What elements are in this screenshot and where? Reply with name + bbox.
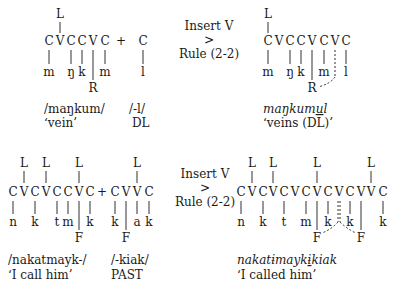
skeleton-slot: C [285, 34, 294, 48]
output-gloss: ‘I called him’ [237, 268, 316, 282]
skeleton-slot: V [307, 34, 317, 48]
stem-form: /maŋkum/ [44, 102, 106, 116]
suffix-gloss: PAST [111, 268, 143, 282]
tone-L: L [367, 156, 375, 170]
skeleton-slot: V [132, 185, 142, 199]
suffix-form: /-kiak/ [111, 253, 150, 267]
segment: n [237, 215, 245, 229]
skeleton-slot: C [319, 34, 328, 48]
plus-sign: + [116, 34, 126, 48]
skeleton-slot: C [77, 34, 86, 48]
segment: k [297, 65, 305, 79]
tone-tier: L L L L [20, 156, 141, 170]
example-2-input: L L L L C V C V C C V C + C V V C [8, 156, 154, 282]
skeleton-slot: V [41, 185, 51, 199]
segment: l [344, 65, 348, 79]
tone-L: L [269, 156, 277, 170]
root-node-R: R [307, 81, 317, 95]
output-form-part: l [323, 102, 327, 116]
output-form-part: nakatɨmayk [237, 253, 308, 267]
skeleton-slot: C [100, 34, 109, 48]
segment: ŋ [67, 65, 75, 79]
skeleton-slot: V [247, 185, 257, 199]
tone-L: L [133, 156, 141, 170]
rule-name: Rule (2-2) [175, 195, 235, 209]
skeleton-slot: V [121, 185, 131, 199]
skeleton-slot: V [268, 185, 278, 199]
example-2-output: L L L L C V C V C V C V C V C V V C [236, 156, 387, 282]
tone-L: L [313, 156, 321, 170]
skeleton-slot: C [341, 34, 350, 48]
tone-L: L [42, 156, 50, 170]
stem-gloss: ‘vein’ [44, 116, 77, 130]
tone-L: L [264, 7, 272, 21]
skeleton-slot: C [263, 34, 272, 48]
segment: t [282, 215, 287, 229]
skeleton-slot: C [52, 185, 61, 199]
skeleton-slot: C [301, 185, 310, 199]
rule-label-2: Insert V > Rule (2-2) [175, 167, 235, 209]
segment: m [99, 65, 111, 79]
skeleton-tier: C V C C V C V C [263, 34, 350, 48]
plus-sign: + [97, 185, 107, 199]
skeleton-slot: V [88, 34, 98, 48]
segment: m [62, 215, 74, 229]
skeleton-tier: C V C C V C + C [44, 34, 147, 48]
output-form: maŋkumul [263, 102, 327, 116]
skeleton-slot: C [138, 34, 147, 48]
skeleton-slot: C [279, 185, 288, 199]
segment: a [133, 215, 140, 229]
segment: k [78, 65, 86, 79]
skeleton-slot-inserted: V [290, 185, 300, 199]
output-form-part: maŋkum [263, 102, 316, 116]
segment: k [259, 215, 267, 229]
skeleton-slot: V [274, 34, 284, 48]
segment: m [318, 65, 330, 79]
skeleton-slot: C [345, 185, 354, 199]
rule-insert-v: Insert V [185, 19, 234, 33]
skeleton-slot: C [258, 185, 267, 199]
skeleton-slot: V [55, 34, 65, 48]
skeleton-slot: C [63, 185, 72, 199]
autosegmental-diagram: L C V C C V C + C m ŋ k m l R /maŋkum/ ‘… [0, 0, 399, 292]
skeleton-slot: C [30, 185, 39, 199]
skeleton-tier: C V C V C V C V C V C V V C [236, 185, 387, 199]
segment: k [111, 215, 119, 229]
segment: k [86, 215, 94, 229]
tone-L: L [75, 156, 83, 170]
skeleton-slot: C [378, 185, 387, 199]
skeleton-slot: V [19, 185, 29, 199]
skeleton-slot: C [44, 34, 53, 48]
output-form-part: kiak [311, 253, 337, 267]
segment: ŋ [286, 65, 294, 79]
root-node-F: F [357, 231, 365, 245]
stem-form: /nakatmayk-/ [8, 253, 88, 267]
root-node-F: F [313, 231, 321, 245]
rule-arrow: > [200, 181, 210, 195]
root-node-F: F [122, 231, 130, 245]
segment: m [43, 65, 55, 79]
example-1-output: L C V C C V C V C m ŋ k m l R maŋkumul ‘… [262, 7, 350, 130]
example-1-input: L C V C C V C + C m ŋ k m l R /maŋkum/ ‘… [43, 7, 149, 130]
skeleton-slot: C [236, 185, 245, 199]
skeleton-slot: C [144, 185, 153, 199]
skeleton-slot: C [66, 34, 75, 48]
segment: m [300, 215, 312, 229]
tone-L: L [20, 156, 28, 170]
stem-gloss: ‘I call him’ [8, 268, 73, 282]
segment: k [145, 215, 153, 229]
skeleton-tier: C V C V C C V C + C V V C [8, 185, 153, 199]
rule-label-1: Insert V > Rule (2-2) [179, 19, 239, 61]
segment-tier: m ŋ k m l [43, 65, 145, 79]
skeleton-slot: V [366, 185, 376, 199]
segment: m [262, 65, 274, 79]
segment: k [346, 215, 354, 229]
segment-tier: n k t m k k a k [9, 215, 153, 229]
rule-insert-v: Insert V [181, 167, 230, 181]
skeleton-slot: V [356, 185, 366, 199]
rule-arrow: > [204, 33, 214, 47]
skeleton-slot: C [296, 34, 305, 48]
rule-name: Rule (2-2) [179, 47, 239, 61]
skeleton-slot: C [323, 185, 332, 199]
skeleton-slot: C [85, 185, 94, 199]
